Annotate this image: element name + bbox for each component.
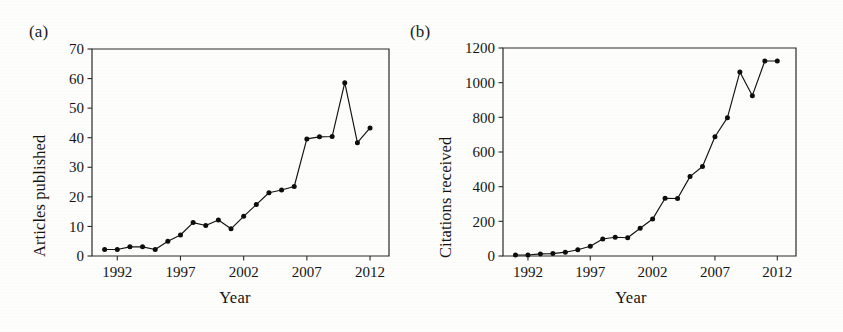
data-point-marker [279, 188, 284, 193]
data-point-marker [638, 226, 643, 231]
data-point-marker [538, 251, 543, 256]
data-point-marker [650, 217, 655, 222]
data-point-marker [675, 196, 680, 201]
y-tick-label: 0 [488, 248, 496, 264]
data-point-marker [563, 250, 568, 255]
data-point-marker [750, 93, 755, 98]
data-point-marker [663, 196, 668, 201]
y-tick-label: 70 [69, 41, 84, 57]
figure-two-panel-publication-trends: (a) Articles published Year 010203040506… [0, 0, 843, 332]
data-point-marker [178, 233, 183, 238]
series-line [105, 83, 370, 250]
data-point-marker [229, 226, 234, 231]
panel-a-plot: 01020304050607019921997200220072012 [0, 0, 421, 332]
data-point-marker [625, 235, 630, 240]
data-point-marker [712, 134, 717, 139]
data-point-marker [140, 244, 145, 249]
data-point-marker [588, 244, 593, 249]
y-tick-label: 40 [69, 130, 84, 146]
panel-b-citations-received: (b) Citations received Year 020040060080… [421, 0, 843, 332]
data-point-marker [304, 136, 309, 141]
plot-frame [503, 48, 796, 256]
x-tick-label: 2012 [355, 264, 385, 280]
y-tick-label: 1000 [465, 75, 495, 91]
data-point-marker [525, 252, 530, 257]
data-point-marker [241, 214, 246, 219]
data-point-marker [575, 247, 580, 252]
data-point-marker [700, 164, 705, 169]
data-point-marker [513, 252, 518, 257]
data-point-marker [688, 174, 693, 179]
plot-frame [92, 49, 389, 256]
y-tick-label: 20 [69, 189, 84, 205]
x-tick-label: 1997 [575, 264, 606, 280]
x-tick-label: 2002 [229, 264, 259, 280]
data-point-marker [317, 134, 322, 139]
data-point-marker [292, 184, 297, 189]
data-point-marker [127, 244, 132, 249]
y-tick-label: 30 [69, 159, 84, 175]
x-tick-label: 2002 [638, 264, 668, 280]
data-point-marker [102, 247, 107, 252]
y-tick-label: 600 [473, 144, 496, 160]
data-point-marker [254, 202, 259, 207]
data-point-marker [203, 223, 208, 228]
data-point-marker [613, 235, 618, 240]
data-point-marker [600, 237, 605, 242]
panel-a-articles-published: (a) Articles published Year 010203040506… [0, 0, 421, 332]
x-tick-label: 1992 [102, 264, 132, 280]
data-point-marker [737, 69, 742, 74]
data-point-marker [165, 239, 170, 244]
y-tick-label: 800 [473, 110, 496, 126]
data-point-marker [775, 59, 780, 64]
data-point-marker [153, 247, 158, 252]
x-tick-label: 2012 [762, 264, 792, 280]
data-point-marker [216, 217, 221, 222]
y-tick-label: 1200 [465, 40, 495, 56]
series-line [515, 61, 777, 255]
x-tick-label: 1992 [513, 264, 543, 280]
data-point-marker [115, 247, 120, 252]
data-point-marker [725, 115, 730, 120]
y-tick-label: 0 [77, 248, 85, 264]
panel-b-plot: 0200400600800100012001992199720022007201… [421, 0, 843, 332]
y-tick-label: 400 [473, 179, 496, 195]
data-point-marker [550, 251, 555, 256]
data-point-marker [368, 125, 373, 130]
data-point-marker [191, 220, 196, 225]
x-tick-label: 1997 [165, 264, 196, 280]
y-tick-label: 50 [69, 100, 84, 116]
data-point-marker [762, 59, 767, 64]
data-point-marker [266, 190, 271, 195]
data-point-marker [342, 80, 347, 85]
y-tick-label: 60 [69, 71, 84, 87]
x-tick-label: 2007 [292, 264, 323, 280]
data-point-marker [330, 134, 335, 139]
y-tick-label: 10 [69, 219, 84, 235]
x-tick-label: 2007 [700, 264, 731, 280]
data-point-marker [355, 140, 360, 145]
y-tick-label: 200 [473, 214, 496, 230]
